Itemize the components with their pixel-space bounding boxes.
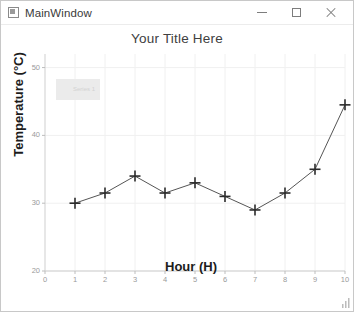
title-bar: MainWindow	[1, 1, 353, 25]
close-icon	[325, 7, 336, 18]
close-button[interactable]	[315, 1, 345, 23]
x-tick-label: 8	[277, 275, 293, 284]
x-axis-label: Hour (H)	[41, 259, 341, 274]
main-window: MainWindow Your Title Here Temperature (…	[0, 0, 354, 312]
y-tick-label: 40	[18, 130, 40, 139]
x-tick-label: 10	[337, 275, 353, 284]
maximize-icon	[292, 8, 301, 17]
chart-legend: Series 1	[56, 79, 100, 100]
y-axis-label: Temperature (°C)	[11, 25, 26, 185]
chart-title: Your Title Here	[1, 31, 353, 46]
x-tick-label: 4	[157, 275, 173, 284]
x-tick-label: 7	[247, 275, 263, 284]
x-tick-label: 5	[187, 275, 203, 284]
resize-grip[interactable]	[339, 297, 351, 309]
minimize-icon	[257, 12, 267, 13]
legend-label: Series 1	[73, 86, 95, 92]
x-tick-label: 1	[67, 275, 83, 284]
x-tick-label: 2	[97, 275, 113, 284]
x-tick-label: 6	[217, 275, 233, 284]
x-tick-label: 0	[37, 275, 53, 284]
window-title: MainWindow	[25, 7, 92, 19]
client-area: Your Title Here Temperature (°C) Hour (H…	[1, 25, 353, 311]
y-tick-label: 20	[18, 266, 40, 275]
application-icon	[8, 7, 19, 18]
x-tick-label: 3	[127, 275, 143, 284]
maximize-button[interactable]	[281, 1, 311, 23]
y-tick-label: 50	[18, 63, 40, 72]
y-tick-label: 30	[18, 198, 40, 207]
x-tick-label: 9	[307, 275, 323, 284]
minimize-button[interactable]	[247, 1, 277, 23]
